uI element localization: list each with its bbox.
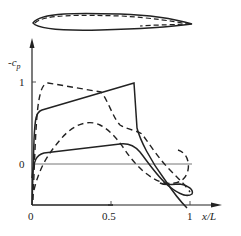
airfoil-profile (33, 13, 192, 30)
axes (30, 38, 223, 208)
y-tick-0: 0 (19, 158, 25, 170)
y-axis-label: -cp (8, 56, 21, 71)
x-axis-label: x/L (201, 210, 216, 222)
x-tick-0.5: 0.5 (102, 210, 116, 222)
x-axis-arrow-icon (211, 203, 222, 208)
x-tick-0: 0 (28, 210, 34, 222)
y-tick-1: 1 (19, 76, 25, 88)
series-solid-lower (32, 144, 192, 196)
x-tick-1: 1 (187, 210, 193, 222)
chart: -cp 1 0 0 0.5 1 x/L (0, 0, 241, 236)
curves (32, 83, 192, 208)
y-axis-arrow-icon (30, 38, 35, 48)
